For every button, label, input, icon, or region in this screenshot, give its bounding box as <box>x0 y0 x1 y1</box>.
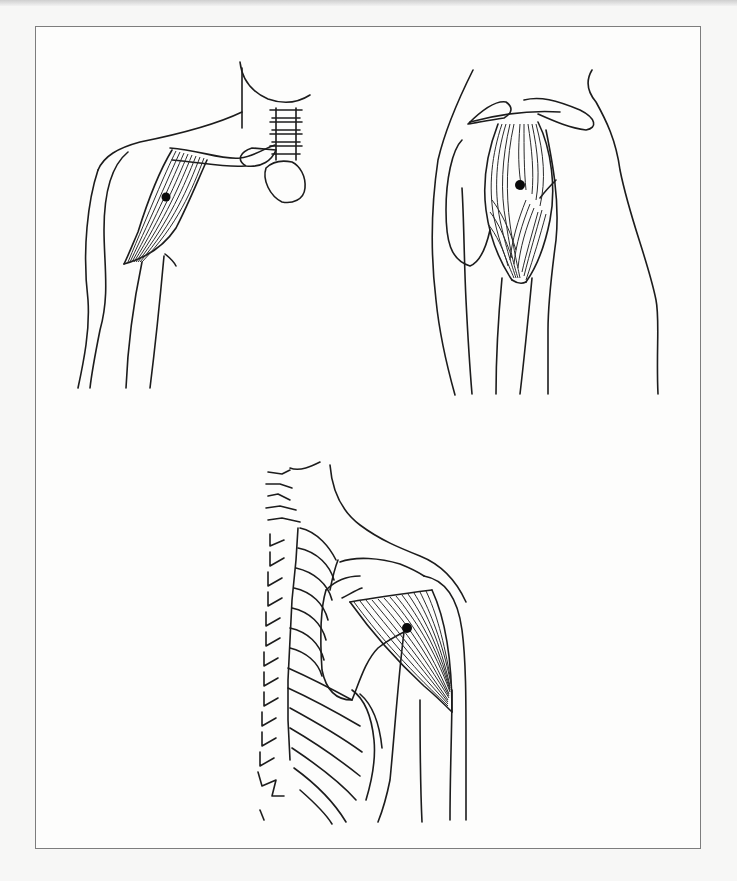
panel-anterior <box>78 62 310 388</box>
lateral-deltoid-muscle <box>485 122 553 283</box>
trigger-point-marker <box>402 623 412 633</box>
anterior-deltoid-muscle <box>124 150 207 264</box>
figure-illustration <box>0 0 737 881</box>
trigger-point-marker <box>515 180 525 190</box>
panel-lateral <box>432 70 658 395</box>
trigger-point-marker <box>162 193 171 202</box>
ribs-icon <box>288 528 382 824</box>
posterior-deltoid-muscle <box>350 590 452 712</box>
panel-posterior <box>258 462 466 824</box>
